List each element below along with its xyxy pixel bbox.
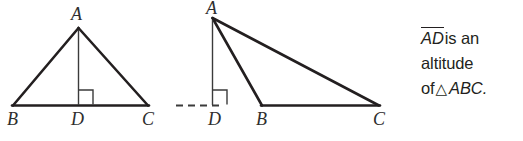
triangle-abc-label: ABC. <box>449 79 487 97</box>
caption-line-3: of△ABC. <box>421 76 523 101</box>
caption-line-2: altitude <box>421 51 523 76</box>
acute-side-ac <box>79 28 149 106</box>
acute-label-c: C <box>142 110 154 128</box>
acute-side-ab <box>13 28 79 106</box>
obtuse-label-b: B <box>256 110 267 128</box>
acute-label-b: B <box>7 110 18 128</box>
caption-line-1-rest: is an <box>445 29 479 47</box>
segment-ad-label: AD <box>421 27 444 48</box>
caption-block: ADis an altitude of△ABC. <box>421 26 523 101</box>
obtuse-label-a: A <box>206 0 217 17</box>
caption-line-3-prefix: of <box>421 79 435 97</box>
triangle-symbol-icon: △ <box>436 80 447 97</box>
geometry-figure: A B D C A D B C ADis an altitude of△ABC. <box>0 0 523 141</box>
acute-triangle-group <box>12 28 149 106</box>
obtuse-label-d: D <box>208 110 221 128</box>
obtuse-label-c: C <box>373 110 385 128</box>
obtuse-right-angle-mark <box>213 90 228 105</box>
acute-label-a: A <box>71 5 82 23</box>
acute-right-angle-mark <box>79 90 94 105</box>
acute-label-d: D <box>71 110 84 128</box>
obtuse-triangle-group <box>176 18 380 106</box>
caption-line-1: ADis an <box>421 26 523 51</box>
